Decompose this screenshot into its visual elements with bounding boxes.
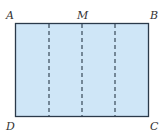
vertex-label-a: A [5,9,14,22]
vertex-label-b: B [149,9,158,22]
vertex-label-m: M [76,9,89,22]
vertex-label-d: D [5,120,15,133]
diagram-canvas: A M B D C [0,0,168,135]
vertex-label-c: C [150,120,159,133]
